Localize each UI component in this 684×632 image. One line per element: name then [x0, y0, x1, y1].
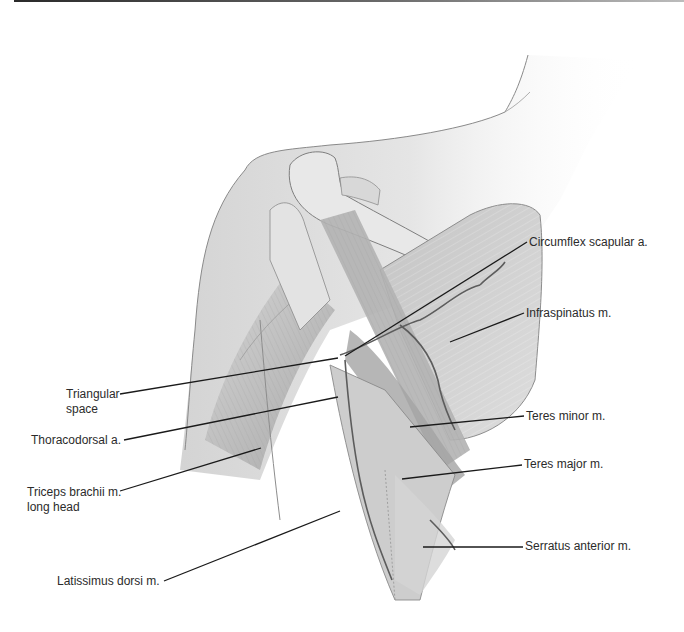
label-triceps: Triceps brachii m. long head	[27, 485, 121, 515]
label-latissimus: Latissimus dorsi m.	[57, 574, 160, 589]
label-serratus-anterior: Serratus anterior m.	[525, 539, 631, 554]
label-thoracodorsal: Thoracodorsal a.	[31, 433, 121, 448]
label-triangular-space-line1: Triangular	[66, 387, 120, 402]
label-triceps-line1: Triceps brachii m.	[27, 485, 121, 500]
label-circumflex-scapular: Circumflex scapular a.	[529, 235, 648, 250]
label-triangular-space: Triangular space	[66, 387, 120, 417]
label-teres-major: Teres major m.	[524, 457, 603, 472]
label-infraspinatus: Infraspinatus m.	[526, 306, 611, 321]
label-teres-minor: Teres minor m.	[526, 409, 605, 424]
leader-latissimus	[164, 511, 340, 581]
label-triangular-space-line2: space	[66, 402, 120, 417]
label-triceps-line2: long head	[27, 500, 121, 515]
